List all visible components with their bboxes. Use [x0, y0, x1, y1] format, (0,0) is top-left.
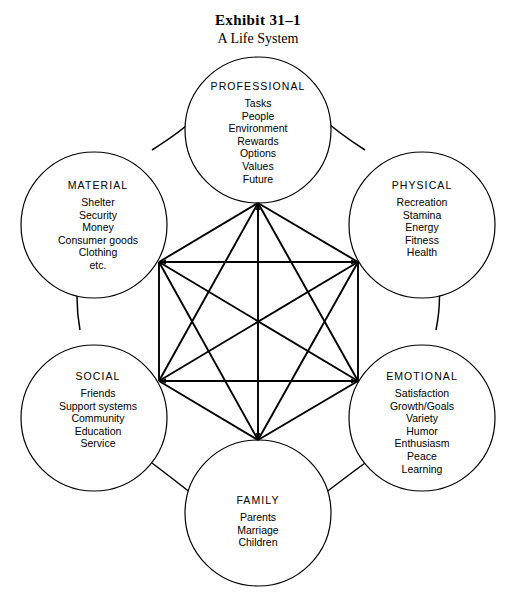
node-circle-physical[interactable] [349, 152, 495, 298]
star-edge-upperleft-top [159, 203, 258, 262]
node-circle-family[interactable] [185, 440, 331, 586]
star-edge-lowerright-bottom [258, 381, 358, 440]
node-circle-material[interactable] [21, 152, 167, 298]
node-circle-emotional[interactable] [349, 345, 495, 491]
node-circle-social[interactable] [21, 345, 167, 491]
star-network [159, 203, 358, 440]
star-edge-bottom-lowerleft [159, 381, 258, 440]
exhibit-page: Exhibit 31–1 A Life System [0, 0, 516, 607]
star-edge-top-upperright [258, 203, 358, 262]
life-system-diagram [0, 0, 516, 607]
node-circle-professional[interactable] [185, 57, 331, 203]
